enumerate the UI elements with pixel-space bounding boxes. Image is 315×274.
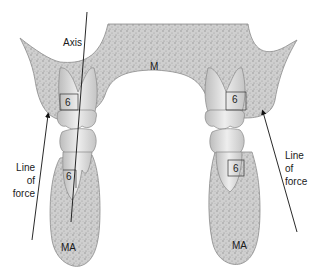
tooth-number-upper-right: 6: [232, 94, 238, 105]
dental-diagram: [0, 0, 315, 274]
tooth-number-lower-right: 6: [233, 163, 239, 174]
line-of-force-right-label: Line of force: [285, 150, 307, 187]
tooth-number-upper-left: 6: [65, 97, 71, 108]
maxilla-label: M: [150, 61, 158, 72]
axis-label: Axis: [63, 37, 82, 48]
line-of-force-left-label: Line of force: [11, 162, 35, 199]
mandible-right-label: MA: [232, 240, 247, 251]
mandible-left-label: MA: [61, 242, 76, 253]
tooth-number-lower-left: 6: [66, 171, 72, 182]
